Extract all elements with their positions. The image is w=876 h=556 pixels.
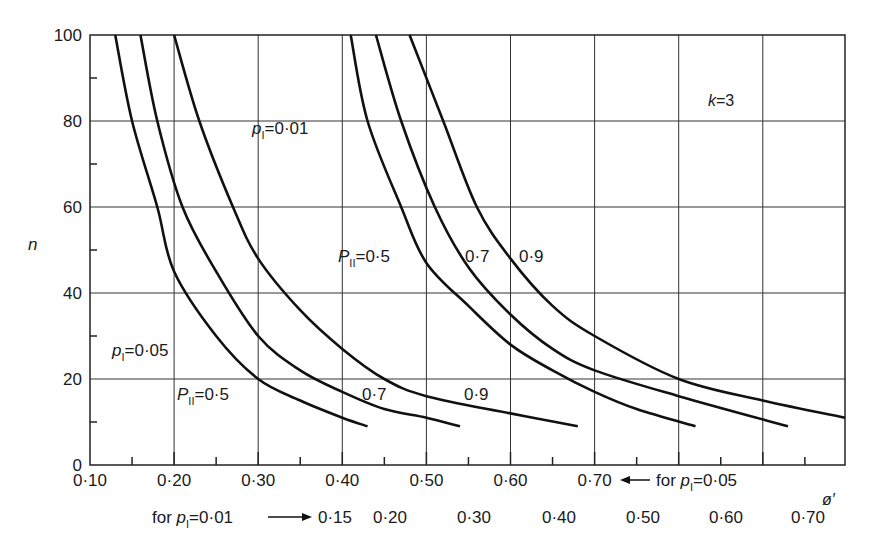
chart: 020406080100 0·100·200·300·400·500·600·7… [0, 0, 876, 556]
x-tick-label-secondary: 0·70 [791, 508, 825, 527]
x-tick-label-secondary: 0·30 [457, 508, 491, 527]
svg-text:for pI=0·01: for pI=0·01 [152, 508, 233, 530]
x-tick-label: 0·30 [241, 471, 275, 490]
label-09-left: 0·9 [464, 385, 489, 404]
x-tick-label: 0·20 [157, 471, 191, 490]
label-p1-001: pI=0·01 [251, 119, 308, 141]
x-tick-label: 0·60 [493, 471, 527, 490]
y-tick-label: 20 [63, 370, 82, 389]
x-tick-label-secondary: 0·15 [318, 508, 352, 527]
y-tick-labels: 020406080100 [54, 26, 82, 475]
curve [410, 35, 845, 418]
label-09-right: 0·9 [519, 247, 544, 266]
y-tick-label: 60 [63, 198, 82, 217]
curve [115, 35, 367, 426]
y-axis-label: n [28, 235, 37, 254]
x-tick-labels-primary: 0·100·200·300·400·500·600·70 [73, 471, 612, 490]
x-axis-label: ø′ [822, 491, 836, 508]
x-tick-label: 0·70 [578, 471, 612, 490]
label-07-left: 0·7 [362, 385, 387, 404]
curve [351, 35, 696, 426]
secondary-axis-note: for pI=0·01 [152, 508, 312, 530]
curves [115, 35, 845, 426]
x-tick-labels-secondary: 0·150·200·300·400·500·600·70 [318, 508, 825, 527]
x-tick-label: 0·50 [409, 471, 443, 490]
y-tick-label: 40 [63, 284, 82, 303]
x-tick-label: 0·10 [73, 471, 107, 490]
x-tick-label-secondary: 0·60 [709, 508, 743, 527]
x-tick-label-secondary: 0·40 [542, 508, 576, 527]
x-tick-label-secondary: 0·50 [626, 508, 660, 527]
label-p1-005: pI=0·05 [111, 341, 168, 363]
axis-ticks [90, 78, 805, 465]
curve [174, 35, 578, 426]
label-pii-05-right: PII=0·5 [338, 247, 390, 269]
y-tick-label: 80 [63, 112, 82, 131]
k-annotation: k=3 [708, 92, 734, 109]
curve [140, 35, 460, 426]
y-tick-label: 100 [54, 26, 82, 45]
label-07-right: 0·7 [465, 247, 490, 266]
x-tick-label-secondary: 0·20 [373, 508, 407, 527]
svg-text:for pI=0·05: for pI=0·05 [656, 471, 737, 493]
primary-axis-note: for pI=0·05 [620, 471, 737, 493]
label-pii-05-left: PII=0·5 [177, 385, 229, 407]
x-tick-label: 0·40 [325, 471, 359, 490]
